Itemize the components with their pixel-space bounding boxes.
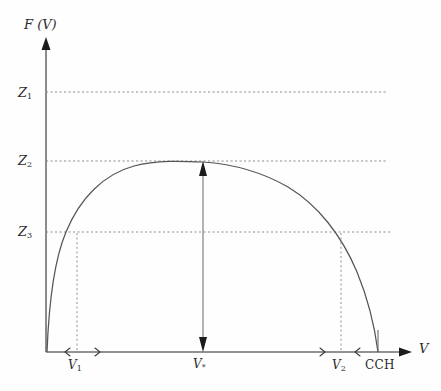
y-axis-arrowhead [42,37,51,50]
vstar-arrowhead-down [199,337,207,352]
y-axis-label: F (V) [24,17,57,32]
gridline-label-z2: Z2 [18,153,32,169]
gridline-label-z1: Z1 [18,85,32,101]
z1-subscript: 1 [27,92,32,101]
z3-base: Z [18,224,27,239]
vstar-base: V [193,357,202,371]
curve-fv [47,161,378,352]
x-mark-label-cch: CCH [365,358,395,372]
x-axis-label: V [419,341,428,356]
vstar-superscript: * [202,363,206,372]
x-mark-label-v1: V1 [68,358,82,373]
z3-subscript: 3 [27,231,32,240]
x-axis-arrowhead [399,348,412,357]
gridline-label-z3: Z3 [18,224,32,240]
v2-base: V [332,358,341,372]
x-mark-label-v2: V2 [332,358,346,373]
x-mark-label-vstar: V* [193,357,206,372]
z1-base: Z [18,85,27,100]
v1-base: V [68,358,77,372]
z2-base: Z [18,153,27,168]
z2-subscript: 2 [27,160,32,169]
diagram-svg [0,0,441,391]
figure-canvas: F (V) V Z1 Z2 Z3 V1 V* V2 CCH [0,0,441,391]
v2-subscript: 2 [341,364,346,373]
vstar-arrowhead-up [199,161,207,176]
v1-subscript: 1 [77,364,82,373]
